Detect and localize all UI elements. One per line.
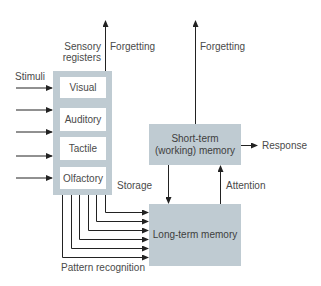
sensory-forgetting-label: Forgetting <box>110 41 155 52</box>
long-term-memory-label: Long-term memory <box>149 204 241 266</box>
short-term-memory-line1: Short-term <box>155 133 235 145</box>
response-label: Response <box>262 140 307 151</box>
stimuli-label: Stimuli <box>15 71 45 82</box>
stimuli-arrows <box>16 88 52 178</box>
sensory-register-auditory: Auditory <box>60 108 106 131</box>
sensory-register-olfactory: Olfactory <box>60 167 106 189</box>
sensory-register-visual: Visual <box>60 77 106 98</box>
sensory-registers-label: Sensory registers <box>59 41 101 63</box>
short-term-forgetting-label: Forgetting <box>200 41 245 52</box>
pattern-recognition-arrows <box>63 195 149 258</box>
long-term-memory-box: Long-term memory <box>149 204 241 266</box>
sensory-registers-block: Visual Auditory Tactile Olfactory <box>53 71 112 195</box>
short-term-memory-box: Short-term (working) memory <box>149 124 241 165</box>
short-term-memory-line2: (working) memory <box>155 145 235 157</box>
sensory-register-tactile: Tactile <box>60 137 106 160</box>
pattern-recognition-label: Pattern recognition <box>61 262 145 273</box>
attention-label: Attention <box>226 180 265 191</box>
storage-label: Storage <box>117 180 152 191</box>
